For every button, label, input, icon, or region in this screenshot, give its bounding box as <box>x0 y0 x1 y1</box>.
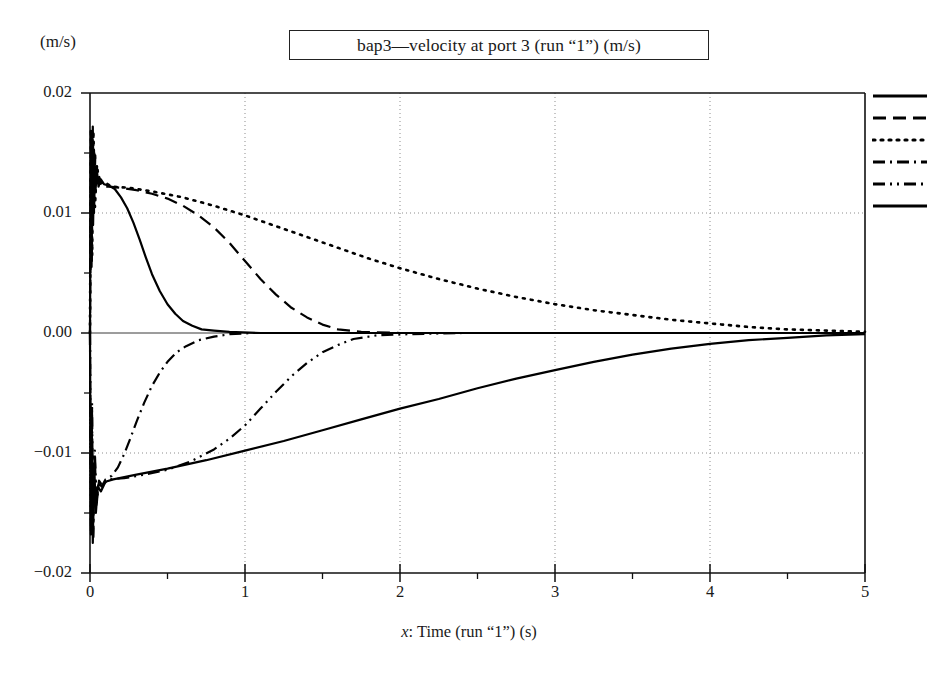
legend-line-swatch <box>872 159 928 165</box>
x-axis-tick-label: 3 <box>535 582 575 602</box>
legend-line-swatch <box>872 203 928 209</box>
legend-item-5[interactable] <box>872 181 928 187</box>
x-axis-title-rest: : Time (run “1”) (s) <box>409 622 537 641</box>
chart-figure: bap3—velocity at port 3 (run “1”) (m/s) … <box>0 0 938 676</box>
y-axis-tick-label: 0.01 <box>8 202 72 222</box>
legend-line-swatch <box>872 137 928 143</box>
legend-line-swatch <box>872 93 928 99</box>
series-line-2 <box>90 127 865 333</box>
series-line-5 <box>90 333 865 539</box>
series-line-1 <box>90 135 865 333</box>
x-axis-tick-label: 4 <box>690 582 730 602</box>
legend-item-1[interactable] <box>872 93 928 99</box>
y-axis-tick-label: 0.02 <box>8 82 72 102</box>
chart-legend <box>872 93 928 211</box>
legend-line-swatch <box>872 181 928 187</box>
legend-item-4[interactable] <box>872 159 928 165</box>
x-axis-tick-label: 5 <box>845 582 885 602</box>
y-axis-tick-label: 0.00 <box>8 322 72 342</box>
y-axis-tick-label: −0.02 <box>8 562 72 582</box>
y-axis-tick-label: −0.01 <box>8 442 72 462</box>
legend-item-6[interactable] <box>872 203 928 209</box>
series-line-3 <box>90 129 865 333</box>
x-axis-title: x: Time (run “1”) (s) <box>0 622 938 642</box>
x-axis-tick-label: 1 <box>225 582 265 602</box>
plot-area <box>0 0 938 676</box>
x-axis-title-variable: x <box>401 622 408 641</box>
series-line-6 <box>90 333 865 543</box>
x-axis-tick-label: 2 <box>380 582 420 602</box>
legend-item-2[interactable] <box>872 115 928 121</box>
legend-item-3[interactable] <box>872 137 928 143</box>
legend-line-swatch <box>872 115 928 121</box>
series-line-4 <box>90 333 865 537</box>
x-axis-tick-label: 0 <box>70 582 110 602</box>
